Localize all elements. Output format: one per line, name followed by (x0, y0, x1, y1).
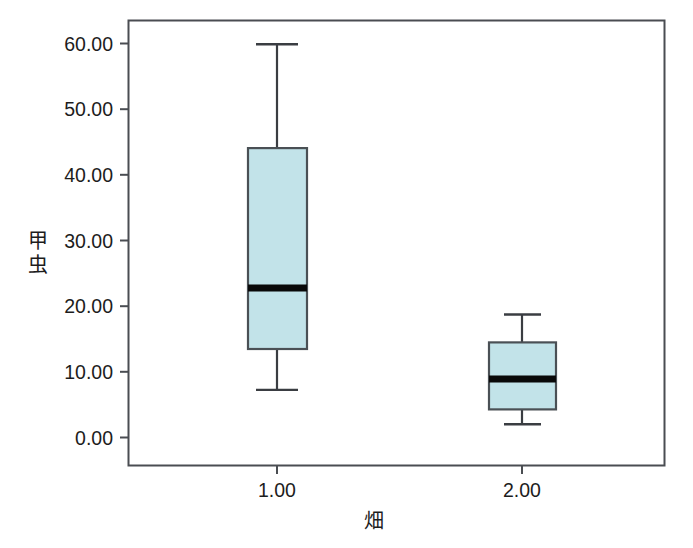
x-tick-label: 2.00 (503, 479, 541, 501)
y-axis-title: 甲 虫 (28, 229, 48, 277)
x-axis-title: 畑 (364, 509, 384, 533)
box-body[interactable] (248, 148, 307, 349)
y-tick-label: 40.00 (64, 164, 113, 186)
y-axis-title-char-1: 甲 (28, 229, 48, 253)
y-axis-title-char-2: 虫 (28, 253, 48, 277)
y-tick-label: 30.00 (64, 230, 113, 252)
y-tick-label: 10.00 (64, 361, 113, 383)
y-tick-label: 50.00 (64, 98, 113, 120)
x-tick-label: 1.00 (258, 479, 296, 501)
chart-canvas: 0.00 10.00 20.00 30.00 40.00 50.00 60.00… (0, 0, 693, 548)
box-plot-figure: 0.00 10.00 20.00 30.00 40.00 50.00 60.00… (0, 0, 693, 548)
y-tick-label: 20.00 (64, 295, 113, 317)
y-tick-label: 0.00 (75, 427, 113, 449)
y-tick-label: 60.00 (64, 33, 113, 55)
